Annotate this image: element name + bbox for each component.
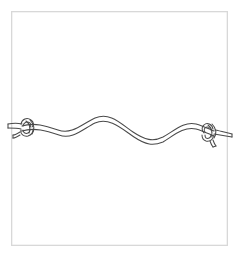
rope-illustration: Rope with overhand knots at both ends — [0, 0, 238, 257]
illustration-canvas: Rope with overhand knots at both ends — [0, 0, 238, 257]
